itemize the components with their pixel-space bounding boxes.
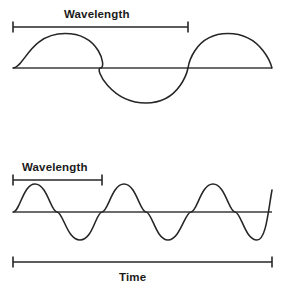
wavelength-measure-bar-top: [13, 22, 188, 33]
wavelength-label-bottom: Wavelength: [22, 162, 88, 174]
wavelength-label-top: Wavelength: [64, 9, 130, 21]
wavelength-diagram: Wavelength Wavelength Time: [0, 0, 283, 293]
time-axis-label: Time: [119, 272, 146, 284]
wave-diagram-canvas: [0, 0, 283, 293]
time-axis-bar: [13, 257, 272, 268]
wavelength-measure-bar-bottom: [13, 175, 102, 186]
